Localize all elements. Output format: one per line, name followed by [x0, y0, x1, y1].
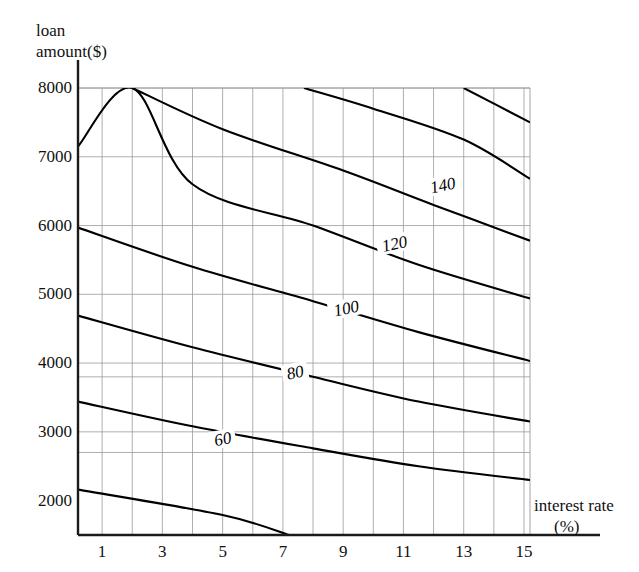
x-axis-tick-label: 9 [328, 542, 358, 562]
y-axis-tick-label: 2000 [16, 491, 72, 511]
y-axis-tick-label: 6000 [16, 216, 72, 236]
x-axis-tick-label: 5 [208, 542, 238, 562]
contour-label: 100 [332, 297, 361, 321]
x-axis-tick-label: 11 [388, 542, 418, 562]
y-axis-tick-label: 7000 [16, 147, 72, 167]
contour-plot-figure: loanamount($) interest rate(%) 608010012… [0, 0, 639, 572]
contour-line [304, 88, 530, 179]
contour-line [78, 490, 289, 535]
y-axis-tick-label: 4000 [16, 353, 72, 373]
contour-label: 120 [380, 232, 409, 256]
contour-label: 140 [428, 173, 457, 197]
contour-line [132, 88, 530, 241]
x-axis-tick-label: 1 [87, 542, 117, 562]
contour-line [464, 88, 530, 122]
x-axis-tick-label: 7 [268, 542, 298, 562]
contour-line [78, 402, 530, 480]
x-axis-tick-label: 3 [147, 542, 177, 562]
x-axis-tick-label: 15 [509, 542, 539, 562]
y-axis-tick-label: 5000 [16, 284, 72, 304]
x-axis-tick-label: 13 [449, 542, 479, 562]
contour-line [78, 87, 530, 298]
y-axis-tick-label: 3000 [16, 422, 72, 442]
y-axis-tick-label: 8000 [16, 78, 72, 98]
plot-area: 6080100120140 [0, 0, 639, 572]
